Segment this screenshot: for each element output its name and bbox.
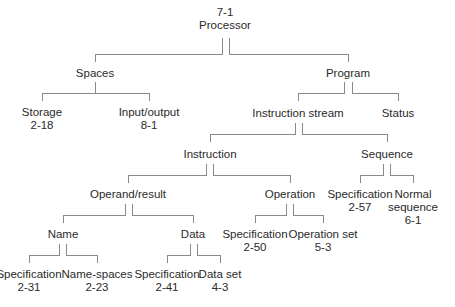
connector-program-status [352,82,398,101]
node-label: Instruction stream [252,107,343,120]
node-data: Data [181,228,205,241]
node-status: Status [382,107,415,120]
node-spaces: Spaces [76,67,114,80]
connector-operation-specification [255,204,286,223]
hierarchy-diagram: 7-1 Processor Spaces Program Storage 2-1… [0,0,455,307]
node-label: Specification [327,188,392,201]
node-label: Specification [222,228,287,241]
node-label: Input/output [119,106,180,119]
connector-data-dataset [197,244,220,263]
node-operation-set: Operation set 5-3 [288,228,357,254]
node-operation-specification: Specification 2-50 [222,228,287,254]
node-name-specification: Specification 2-31 [0,268,62,294]
node-input-output: Input/output 8-1 [119,106,180,132]
node-ref: 2-41 [134,281,199,294]
connector-istream-instruction [210,123,295,142]
connector-instruction-operation [213,164,290,183]
node-label: Status [382,107,415,120]
connector-operand-name [63,204,125,223]
connector-instruction-operand [128,164,206,183]
node-label: Name [48,228,79,241]
connector-operation-set [293,204,323,223]
node-label: Program [326,67,370,80]
node-ref: 7-1 [199,6,251,19]
node-ref: 2-23 [62,281,133,294]
connector-processor-spaces [95,38,222,62]
node-label: Data set [199,268,242,281]
node-ref: 2-50 [222,241,287,254]
node-sequence-specification: Specification 2-57 [327,188,392,214]
connector-sequence-normal [390,164,413,183]
connector-operand-data [132,204,193,223]
connector-name-specification [29,244,59,263]
connector-data-specification [167,244,190,263]
connector-processor-program [229,38,348,62]
node-ref: 2-57 [327,201,392,214]
node-instruction-stream: Instruction stream [252,107,343,120]
node-label: Storage [22,106,62,119]
node-label: Data [181,228,205,241]
node-ref: 4-3 [199,281,242,294]
connector-sequence-specification [360,164,383,183]
node-name: Name [48,228,79,241]
node-label-line2: sequence [388,201,438,214]
node-ref: 2-18 [22,119,62,132]
node-processor: 7-1 Processor [199,6,251,32]
node-instruction: Instruction [183,148,236,161]
node-operand-result: Operand/result [90,188,166,201]
node-label: Operand/result [90,188,166,201]
node-label: Operation [265,188,316,201]
node-program: Program [326,67,370,80]
node-storage: Storage 2-18 [22,106,62,132]
node-label: Name-spaces [62,268,133,281]
node-ref: 5-3 [288,241,357,254]
node-label: Specification [134,268,199,281]
connector-spaces-children [42,82,149,101]
node-normal-sequence: Normal sequence 6-1 [388,188,438,227]
node-data-set: Data set 4-3 [199,268,242,294]
connector-istream-sequence [302,123,387,142]
node-ref: 8-1 [119,119,180,132]
node-operation: Operation [265,188,316,201]
node-label: Sequence [361,148,413,161]
connector-program-instruction-stream [298,82,344,101]
node-label: Instruction [183,148,236,161]
connector-name-namespaces [66,244,97,263]
node-ref: 6-1 [388,214,438,227]
node-ref: 2-31 [0,281,62,294]
node-label: Specification [0,268,62,281]
node-data-specification: Specification 2-41 [134,268,199,294]
node-label: Processor [199,19,251,32]
node-sequence: Sequence [361,148,413,161]
node-name-spaces: Name-spaces 2-23 [62,268,133,294]
node-label: Spaces [76,67,114,80]
node-label: Operation set [288,228,357,241]
node-label: Normal [388,188,438,201]
